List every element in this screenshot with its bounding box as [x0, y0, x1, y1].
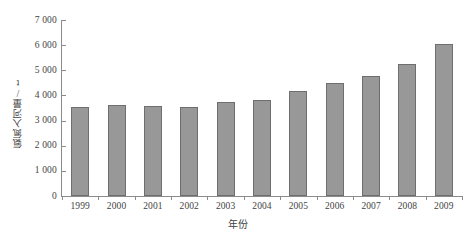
x-axis-tick [426, 196, 427, 200]
x-axis-tick-label: 1999 [62, 202, 98, 212]
bar [253, 100, 271, 196]
x-axis-tick [62, 196, 63, 200]
bar [435, 44, 453, 196]
bar [144, 106, 162, 196]
x-axis-tick [317, 196, 318, 200]
bar [362, 76, 380, 196]
x-axis-tick-label: 2001 [135, 202, 171, 212]
x-axis-tick-label: 2004 [244, 202, 280, 212]
x-axis-tick [207, 196, 208, 200]
x-axis-tick [462, 196, 463, 200]
y-axis-tick-label: 6 000 [35, 41, 57, 51]
x-axis-tick [280, 196, 281, 200]
bar [217, 102, 235, 196]
y-axis-tick-label: 3 000 [35, 116, 57, 126]
x-axis-tick [389, 196, 390, 200]
y-axis-tick-label: 4 000 [35, 91, 57, 101]
bar [326, 83, 344, 196]
y-axis-title: 氨氮入河量/t [13, 78, 27, 148]
bar-chart: 氨氮入河量/t 01 0002 0003 0004 0005 0006 0007… [0, 0, 476, 247]
x-axis-tick-label: 2000 [98, 202, 134, 212]
x-axis-tick-label: 2008 [389, 202, 425, 212]
bar [289, 91, 307, 196]
y-axis-tick-label: 0 [52, 192, 57, 202]
y-axis-tick-label: 5 000 [35, 66, 57, 76]
y-axis-tick-label: 7 000 [35, 16, 57, 26]
bar [108, 105, 126, 196]
plot-area [62, 20, 462, 196]
x-axis-tick [171, 196, 172, 200]
bar [180, 107, 198, 196]
x-axis-tick [98, 196, 99, 200]
x-axis-tick [135, 196, 136, 200]
y-axis-tick-label: 2 000 [35, 141, 57, 151]
x-axis-tick-label: 2002 [171, 202, 207, 212]
x-axis-tick-label: 2006 [317, 202, 353, 212]
x-axis-tick [244, 196, 245, 200]
y-axis-tick-label: 1 000 [35, 167, 57, 177]
x-axis-tick-label: 2005 [280, 202, 316, 212]
x-axis-tick-label: 2007 [353, 202, 389, 212]
bar [71, 107, 89, 196]
x-axis-tick-label: 2009 [426, 202, 462, 212]
bar [398, 64, 416, 196]
x-axis-tick [353, 196, 354, 200]
x-axis-tick-label: 2003 [207, 202, 243, 212]
x-axis-line [61, 196, 463, 197]
x-axis-title: 年份 [0, 219, 476, 231]
